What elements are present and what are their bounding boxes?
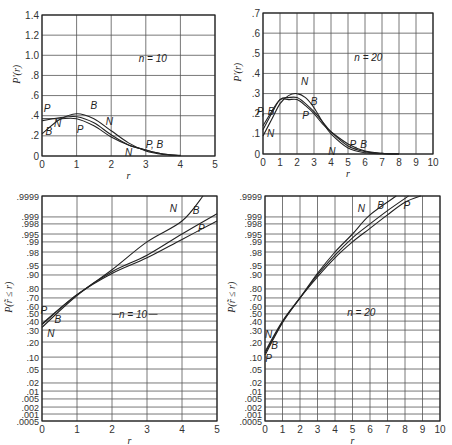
x-tick-label: 5 bbox=[345, 157, 351, 168]
x-tick-label: 3 bbox=[144, 424, 150, 435]
x-tick-label: 9 bbox=[420, 424, 426, 435]
series-label: N bbox=[54, 118, 62, 129]
y-tick-label: 1.0 bbox=[25, 50, 39, 61]
series-label: B bbox=[54, 314, 61, 325]
x-tick-label: 1 bbox=[280, 424, 286, 435]
y-tick-label: 0 bbox=[33, 151, 39, 162]
y-tick-label: 0 bbox=[254, 149, 260, 160]
y-tick-label: .995 bbox=[244, 230, 262, 240]
series-label: B bbox=[271, 340, 278, 351]
x-tick-label: 6 bbox=[367, 424, 373, 435]
chart-cdf-n20: 012345678910.0005.001.002.005.01.02.05.1… bbox=[226, 192, 446, 445]
y-axis-label: P'(r) bbox=[232, 62, 244, 82]
x-tick-label: 7 bbox=[379, 157, 385, 168]
y-tick-label: .98 bbox=[26, 248, 39, 258]
x-axis-label: r bbox=[128, 435, 132, 445]
series-label: P, B bbox=[349, 139, 367, 150]
series-p-curve bbox=[265, 196, 421, 352]
figure-four-panel-distribution-comparison: 0123450.2.4.6.81.01.21.4rP'(r)n = 10PBNB… bbox=[0, 0, 452, 445]
x-tick-label: 9 bbox=[413, 157, 419, 168]
series-label: N bbox=[358, 203, 366, 214]
y-axis-label: P(r̃ ≤ r) bbox=[3, 281, 15, 314]
x-axis-label: r bbox=[346, 168, 350, 179]
x-axis-label: r bbox=[351, 435, 355, 445]
series-label: N bbox=[301, 76, 309, 87]
x-tick-label: 2 bbox=[297, 424, 303, 435]
series-label: N bbox=[125, 147, 133, 158]
series-label: N bbox=[267, 128, 275, 139]
y-tick-label: 1.4 bbox=[25, 10, 39, 21]
series-n-curve bbox=[265, 196, 396, 355]
y-tick-label: .9999 bbox=[16, 192, 39, 202]
series-label: N bbox=[47, 328, 55, 339]
x-tick-label: 5 bbox=[212, 159, 218, 170]
chart-pdf-n20: 0123456789100.1.2.3.4.5.6.7rP'(r)n = 20P… bbox=[232, 8, 439, 180]
y-axis-label: P'(r) bbox=[11, 64, 23, 84]
sample-size-annotation: n = 20 bbox=[354, 52, 383, 63]
x-tick-label: 4 bbox=[332, 424, 338, 435]
sample-size-annotation: n = 10 bbox=[119, 309, 148, 320]
y-tick-label: .95 bbox=[249, 261, 262, 271]
sample-size-annotation: n = 20 bbox=[347, 307, 376, 318]
x-tick-label: 0 bbox=[39, 424, 45, 435]
y-tick-label: .995 bbox=[21, 230, 39, 240]
y-tick-label: .80 bbox=[26, 284, 39, 294]
y-tick-label: .90 bbox=[249, 270, 262, 280]
y-tick-label: .4 bbox=[252, 68, 261, 79]
x-tick-label: 10 bbox=[434, 424, 446, 435]
series-label: B bbox=[311, 96, 318, 107]
x-tick-label: 0 bbox=[262, 424, 268, 435]
series-label: N bbox=[265, 329, 273, 340]
y-tick-label: 1.2 bbox=[25, 30, 39, 41]
x-tick-label: 6 bbox=[362, 157, 368, 168]
x-tick-label: 2 bbox=[109, 424, 115, 435]
y-tick-label: .6 bbox=[252, 28, 261, 39]
series-label: P bbox=[198, 223, 205, 234]
y-tick-label: .05 bbox=[249, 365, 262, 375]
y-tick-label: .10 bbox=[26, 353, 39, 363]
x-tick-label: 3 bbox=[311, 157, 317, 168]
series-label: P bbox=[77, 124, 84, 135]
series-label: P bbox=[403, 200, 410, 211]
series-label: B bbox=[377, 200, 384, 211]
y-tick-label: .5 bbox=[252, 48, 261, 59]
x-tick-label: 3 bbox=[315, 424, 321, 435]
x-tick-label: 7 bbox=[385, 424, 391, 435]
x-tick-label: 0 bbox=[39, 159, 45, 170]
x-tick-label: 4 bbox=[328, 157, 334, 168]
series-n-curve bbox=[42, 196, 203, 327]
chart-pdf-n10: 0123450.2.4.6.81.01.21.4rP'(r)n = 10PBNB… bbox=[11, 10, 218, 182]
y-tick-label: .90 bbox=[26, 270, 39, 280]
series-label: N bbox=[170, 203, 178, 214]
plot-frame bbox=[42, 15, 215, 156]
y-tick-label: .20 bbox=[249, 338, 262, 348]
x-tick-label: 1 bbox=[74, 159, 80, 170]
series-label: P bbox=[40, 305, 47, 316]
x-tick-label: 8 bbox=[402, 424, 408, 435]
series-label: B bbox=[46, 126, 53, 137]
y-tick-label: .6 bbox=[31, 90, 40, 101]
y-tick-label: .20 bbox=[26, 338, 39, 348]
x-tick-label: 3 bbox=[143, 159, 149, 170]
x-tick-label: 2 bbox=[108, 159, 114, 170]
x-tick-label: 2 bbox=[294, 157, 300, 168]
x-tick-label: 1 bbox=[277, 157, 283, 168]
series-label: P bbox=[302, 110, 309, 121]
series-label: B bbox=[91, 100, 98, 111]
y-tick-label: .8 bbox=[31, 70, 40, 81]
series-label: P, B bbox=[146, 139, 164, 150]
grid bbox=[263, 13, 433, 154]
series-label: B bbox=[193, 205, 200, 216]
y-tick-label: .95 bbox=[26, 261, 39, 271]
y-tick-label: .9999 bbox=[239, 192, 262, 202]
chart-cdf-n10: 012345.0005.001.002.005.01.02.05.10.20.3… bbox=[3, 192, 220, 445]
x-tick-label: 4 bbox=[179, 424, 185, 435]
series-label: P bbox=[265, 353, 272, 364]
y-tick-label: .80 bbox=[249, 284, 262, 294]
y-tick-label: .70 bbox=[26, 293, 39, 303]
y-tick-label: .02 bbox=[249, 378, 262, 388]
series-label: N bbox=[106, 116, 114, 127]
x-tick-label: 4 bbox=[178, 159, 184, 170]
x-tick-label: 8 bbox=[396, 157, 402, 168]
x-tick-label: 5 bbox=[214, 424, 220, 435]
